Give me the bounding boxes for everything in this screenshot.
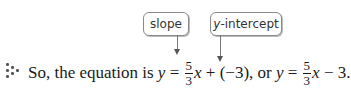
- fraction-denominator: 3: [185, 74, 194, 88]
- var-x: x: [194, 63, 202, 82]
- fraction-numerator-2: 5: [303, 59, 312, 74]
- slope-fraction: 53: [185, 59, 194, 88]
- sentence-intro: So, the equation is: [28, 63, 158, 82]
- var-y-2: y: [276, 63, 284, 82]
- slope-callout-label: slope: [150, 17, 182, 31]
- var-x-2: x: [312, 63, 320, 82]
- plus-part: + (−3), or: [202, 63, 276, 82]
- y-intercept-arrow: [220, 35, 221, 57]
- slope-callout: slope: [143, 12, 189, 36]
- minus-part: − 3.: [320, 63, 351, 82]
- equation-sentence: So, the equation is y = 53x + (−3), or y…: [28, 60, 351, 89]
- y-intercept-callout: y-intercept: [210, 12, 282, 36]
- equals-sign: =: [165, 63, 183, 82]
- slope-fraction-2: 53: [303, 59, 312, 88]
- slope-arrow: [177, 35, 178, 50]
- fraction-numerator: 5: [185, 59, 194, 74]
- equals-sign-2: =: [284, 63, 302, 82]
- dot-pattern-icon: [6, 63, 20, 79]
- y-intercept-callout-label: -intercept: [220, 17, 278, 31]
- fraction-denominator-2: 3: [303, 74, 312, 88]
